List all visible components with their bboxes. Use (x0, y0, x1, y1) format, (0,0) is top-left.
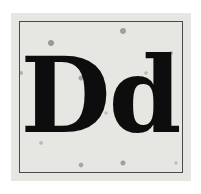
uppercase-letter: D (21, 44, 107, 148)
letter-pair: D d (26, 38, 176, 148)
lowercase-letter: d (109, 44, 182, 148)
